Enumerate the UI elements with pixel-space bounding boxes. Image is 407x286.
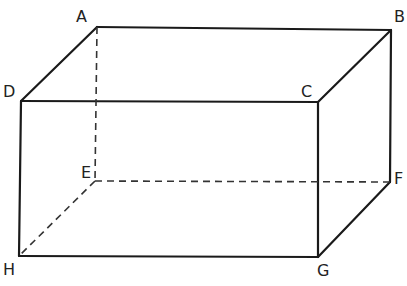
- label-D: D: [3, 82, 15, 101]
- edge-GF: [318, 182, 390, 257]
- label-B: B: [394, 7, 405, 26]
- edge-HG: [19, 256, 318, 257]
- edge-EF: [95, 181, 390, 182]
- label-A: A: [76, 7, 87, 26]
- cuboid-diagram: A B C D E F G H: [0, 0, 407, 286]
- edge-CD: [21, 101, 318, 102]
- label-F: F: [394, 169, 403, 188]
- solid-edges: [19, 27, 391, 257]
- edge-DH: [19, 101, 21, 256]
- label-E: E: [81, 163, 91, 182]
- edge-BC: [318, 30, 391, 102]
- vertex-labels: A B C D E F G H: [3, 7, 405, 280]
- dashed-edges: [19, 27, 390, 256]
- label-C: C: [301, 82, 312, 101]
- edge-FB: [390, 30, 391, 182]
- edge-EH: [19, 181, 95, 256]
- edge-AE: [95, 27, 97, 181]
- label-G: G: [317, 261, 329, 280]
- edge-AB: [97, 27, 391, 30]
- label-H: H: [3, 260, 15, 279]
- edge-DA: [21, 27, 97, 101]
